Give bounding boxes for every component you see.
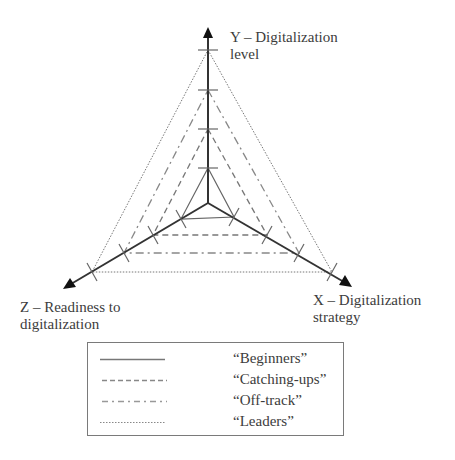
legend-label: “Off-track” bbox=[233, 391, 302, 409]
legend-label: “Catching-ups” bbox=[233, 370, 326, 388]
legend-item-leaders: “Leaders” bbox=[88, 412, 343, 432]
axis-label-z-line1: Z – Readiness to bbox=[20, 299, 120, 316]
dash-dot-line-icon bbox=[100, 400, 170, 403]
legend-item-catching-ups: “Catching-ups” bbox=[88, 370, 343, 390]
arrow-z-icon bbox=[63, 278, 76, 289]
legend-item-beginners: “Beginners” bbox=[88, 349, 343, 369]
legend-label: “Leaders” bbox=[233, 412, 294, 430]
legend-label: “Beginners” bbox=[233, 349, 307, 367]
dashed-line-icon bbox=[100, 379, 170, 382]
axis-x bbox=[208, 203, 344, 282]
ticks-x bbox=[229, 208, 337, 281]
legend: “Beginners” “Catching-ups” “Off-track” “… bbox=[87, 342, 344, 436]
axis-label-y: Y – Digitalization level bbox=[230, 29, 338, 63]
axis-label-x-line1: X – Digitalization bbox=[313, 292, 421, 309]
series-leaders bbox=[92, 50, 332, 272]
arrow-y-icon bbox=[203, 27, 213, 38]
legend-item-off-track: “Off-track” bbox=[88, 391, 343, 411]
series-off-track bbox=[124, 90, 299, 253]
axis-label-x: X – Digitalization strategy bbox=[313, 292, 421, 326]
axis-label-z-line2: digitalization bbox=[20, 316, 120, 333]
solid-line-icon bbox=[100, 358, 170, 361]
axis-label-x-line2: strategy bbox=[313, 309, 421, 326]
series-catching-ups bbox=[153, 129, 267, 235]
axis-label-y-line2: level bbox=[230, 46, 338, 63]
axis-label-y-line1: Y – Digitalization bbox=[230, 29, 338, 46]
dotted-line-icon bbox=[100, 421, 170, 424]
axis-label-z: Z – Readiness to digitalization bbox=[20, 299, 120, 333]
